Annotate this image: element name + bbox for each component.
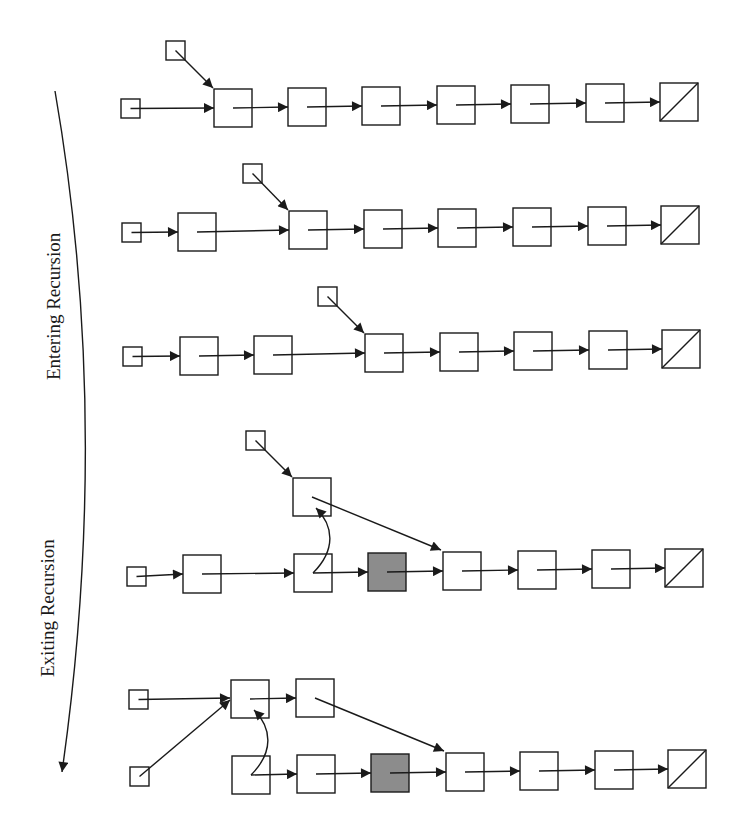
next-pointer-arrow [383, 228, 438, 229]
next-pointer-arrow [233, 107, 288, 108]
recursion-pointer-arrow [328, 297, 365, 334]
next-pointer-arrow [307, 106, 362, 107]
next-pointer-arrow [202, 573, 294, 574]
next-pointer-arrow [533, 350, 589, 351]
entering-recursion-label: Entering Recursion [43, 233, 65, 380]
next-pointer-arrow [251, 774, 297, 775]
stage-1 [121, 41, 698, 127]
stage-3 [123, 287, 700, 375]
recursion-pointer-arrow [253, 174, 289, 211]
stage-5 [129, 679, 706, 794]
next-pointer-arrow [605, 102, 660, 103]
next-pointer-arrow [250, 698, 296, 699]
next-pointer-arrow [465, 771, 520, 772]
next-pointer-arrow [608, 349, 662, 350]
next-pointer-arrow [381, 105, 437, 106]
head-arrow [132, 232, 179, 233]
next-pointer-arrow [390, 772, 446, 773]
reversed-next-arrow [315, 698, 444, 751]
diagram-root [121, 41, 706, 794]
next-pointer-arrow [537, 569, 592, 570]
next-pointer-arrow [611, 568, 665, 569]
lifted-next-arrow [312, 497, 441, 550]
next-pointer-arrow [308, 229, 364, 230]
stage-4 [127, 431, 703, 593]
recursion-pointer-arrow [140, 700, 231, 777]
recursion-pointer-arrow [256, 441, 293, 478]
next-pointer-arrow [614, 769, 668, 770]
next-pointer-arrow [457, 227, 513, 228]
next-pointer-arrow [530, 103, 586, 104]
next-pointer-arrow [532, 226, 588, 227]
next-pointer-arrow [539, 770, 595, 771]
next-pointer-arrow [456, 104, 511, 105]
stage-2 [122, 164, 699, 251]
head-arrow [133, 356, 181, 357]
head-arrow [139, 698, 231, 700]
next-pointer-arrow [384, 352, 440, 353]
next-pointer-arrow [313, 572, 368, 573]
recursion-pointer-arrow [176, 51, 214, 89]
next-pointer-arrow [459, 351, 514, 352]
head-arrow [131, 108, 215, 109]
phase-arrow-curve [55, 91, 85, 772]
next-pointer-arrow [199, 355, 254, 356]
recursive-list-reversal-diagram [0, 0, 742, 829]
exiting-recursion-label: Exiting Recursion [37, 539, 59, 677]
next-pointer-arrow [607, 225, 661, 226]
next-pointer-arrow [387, 571, 443, 572]
next-pointer-arrow [462, 570, 518, 571]
next-pointer-arrow [316, 773, 371, 774]
